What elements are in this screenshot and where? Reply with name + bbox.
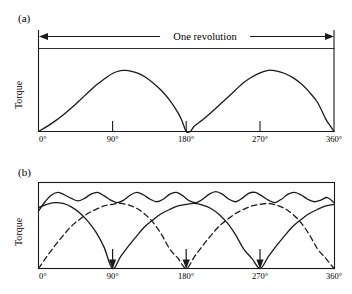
panel-b-xtick-270: 270° [252, 271, 268, 281]
panel-a-xtick-0: 0° [39, 134, 47, 144]
panel-a-xtick-180: 180° [178, 134, 194, 144]
panel-b-xtick-90: 90° [107, 271, 119, 281]
panel-b-label: (b) [18, 166, 31, 179]
panel-a-label: (a) [18, 12, 31, 25]
panel-b-xtick-0: 0° [39, 271, 47, 281]
one-revolution-label: One revolution [173, 31, 237, 42]
panel-a-xtick-270: 270° [252, 134, 268, 144]
figure-background [0, 0, 352, 294]
torque-figure: (a) Torque One revolution [0, 0, 352, 294]
panel-a-ylabel: Torque [13, 80, 24, 109]
panel-a-xtick-90: 90° [107, 134, 119, 144]
panel-b-xtick-360: 360° [326, 271, 342, 281]
panel-b-ylabel: Torque [13, 217, 24, 246]
panel-a-xtick-360: 360° [326, 134, 342, 144]
panel-b-xtick-180: 180° [178, 271, 194, 281]
